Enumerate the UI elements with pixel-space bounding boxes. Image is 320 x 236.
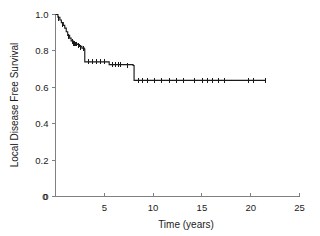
x-tick-label: 0	[42, 191, 47, 202]
x-tick-label: 10	[148, 202, 159, 213]
axes-group	[56, 15, 300, 197]
x-tick-label: 20	[245, 202, 256, 213]
y-tick-label: 0.6	[35, 82, 48, 93]
kaplan-meier-figure: 00.20.40.60.81.0 0510152025 Time (years)…	[0, 0, 320, 236]
y-axis-ticks: 00.20.40.60.81.0	[35, 9, 55, 202]
y-tick-label: 0.4	[35, 118, 48, 129]
y-axis-title: Local Disease Free Survival	[9, 43, 20, 168]
y-tick-label: 0.8	[35, 45, 48, 56]
x-tick-label: 25	[294, 202, 305, 213]
y-tick-label: 1.0	[35, 9, 48, 20]
y-tick-label: 0.2	[35, 155, 48, 166]
x-tick-label: 15	[197, 202, 208, 213]
x-tick-label: 5	[102, 202, 107, 213]
x-axis-title: Time (years)	[158, 219, 214, 230]
survival-curve-group	[56, 15, 266, 81]
x-axis-ticks: 0510152025	[42, 191, 305, 213]
survival-chart-canvas: 00.20.40.60.81.0 0510152025 Time (years)…	[0, 0, 320, 236]
survival-curve-line	[56, 15, 266, 81]
censoring-marks-group	[59, 16, 265, 82]
